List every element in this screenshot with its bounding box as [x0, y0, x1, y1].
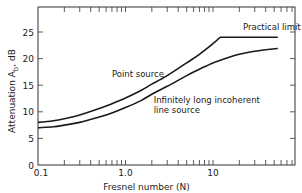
y-tick-label: 5	[28, 134, 34, 144]
point-source-label: Point source	[112, 69, 164, 79]
y-tick-label: 15	[23, 81, 34, 91]
line-source-label-1: Infinitely long incoherent	[154, 95, 261, 105]
x-tick-label: 10	[207, 168, 219, 178]
y-tick-label: 20	[23, 54, 35, 64]
x-tick-label: 0.1	[34, 168, 48, 178]
line-source-label-2: line source	[154, 105, 200, 115]
practical-limit-label: Practical limit	[243, 22, 301, 32]
y-tick-label: 10	[23, 107, 35, 117]
x-tick-label: 1.0	[118, 168, 133, 178]
x-axis-label: Fresnel number (N)	[103, 182, 190, 192]
chart-canvas: 05101520250.11.010Fresnel number (N)Atte…	[0, 0, 302, 193]
y-tick-label: 25	[23, 28, 34, 38]
y-axis-label: Attenuation Ab, dB	[7, 49, 20, 133]
attenuation-chart: 05101520250.11.010Fresnel number (N)Atte…	[0, 0, 302, 193]
